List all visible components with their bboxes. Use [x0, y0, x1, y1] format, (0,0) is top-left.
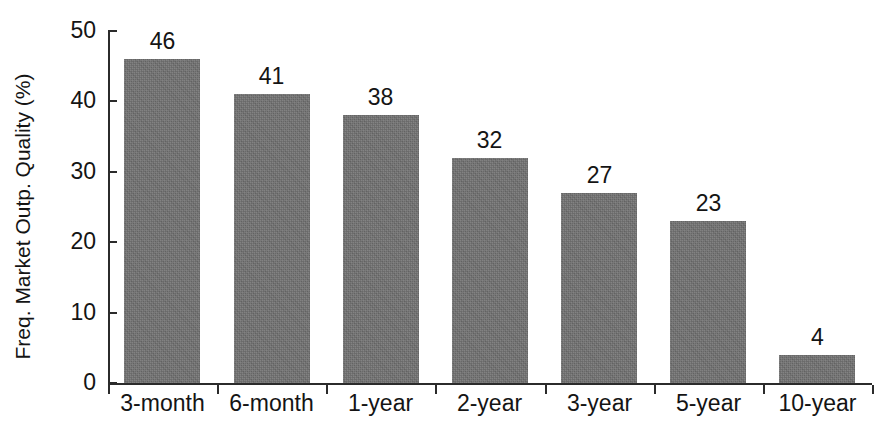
y-axis-tick-label: 40 [52, 89, 96, 112]
bar-value-label: 32 [435, 129, 544, 152]
bar-value-label: 4 [763, 326, 872, 349]
x-axis-category-label: 2-year [435, 392, 544, 415]
x-axis-category-label: 6-month [217, 392, 326, 415]
x-axis-category-label: 10-year [763, 392, 872, 415]
bar-value-label: 46 [108, 30, 217, 53]
x-axis-category-label: 5-year [654, 392, 763, 415]
x-axis-category-label: 1-year [326, 392, 435, 415]
y-axis-tick [108, 100, 117, 102]
bar-value-label: 27 [545, 164, 654, 187]
y-axis-tick-label: 0 [52, 371, 96, 394]
y-axis-tick-label: 10 [52, 301, 96, 324]
bar-value-label: 23 [654, 192, 763, 215]
bar [343, 115, 419, 383]
y-axis-tick-label: 20 [52, 230, 96, 253]
bar-chart-figure: Freq. Market Outp. Quality (%) 010203040… [0, 0, 892, 433]
bar [779, 355, 855, 383]
bar [670, 221, 746, 383]
y-axis-tick [108, 241, 117, 243]
y-axis-tick [108, 382, 117, 384]
y-axis-tick-label: 30 [52, 160, 96, 183]
x-axis-tick [872, 385, 874, 394]
x-axis-category-label: 3-year [545, 392, 654, 415]
y-axis-title: Freq. Market Outp. Quality (%) [0, 0, 46, 433]
bar [124, 59, 200, 383]
bar-value-label: 38 [326, 86, 435, 109]
y-axis-tick-label: 50 [52, 19, 96, 42]
y-axis-line [108, 31, 110, 385]
x-axis-line [108, 383, 872, 385]
bar [561, 193, 637, 383]
y-axis-tick [108, 171, 117, 173]
bar [234, 94, 310, 383]
bar-value-label: 41 [217, 65, 326, 88]
x-axis-category-label: 3-month [108, 392, 217, 415]
y-axis-tick [108, 312, 117, 314]
bar [452, 158, 528, 383]
